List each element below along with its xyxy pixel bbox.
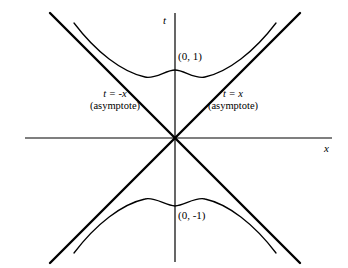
asymptote-negative-note: (asymptote) — [86, 100, 144, 112]
vertex-bottom-label: (0, -1) — [178, 209, 206, 221]
asymptote-positive-label: t = x (asymptote) — [204, 88, 262, 112]
asymptote-negative-label: t = -x (asymptote) — [86, 88, 144, 112]
plot-canvas — [0, 0, 348, 268]
hyperbola-figure: t x (0, 1) (0, -1) t = -x (asymptote) t … — [0, 0, 348, 268]
asymptote-negative-equation: t = -x — [86, 88, 144, 100]
vertex-top-label: (0, 1) — [178, 50, 202, 62]
t-axis-label: t — [163, 14, 166, 26]
asymptote-positive-note: (asymptote) — [204, 100, 262, 112]
x-axis-label: x — [324, 142, 329, 154]
asymptote-positive-equation: t = x — [204, 88, 262, 100]
